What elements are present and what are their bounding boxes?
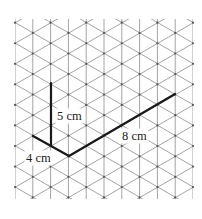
grid-node	[192, 124, 194, 126]
grid-node	[103, 196, 105, 198]
grid-node	[103, 155, 105, 157]
grid-node	[192, 63, 194, 65]
grid-node	[67, 196, 69, 198]
grid-node	[139, 32, 141, 34]
grid-node	[32, 114, 34, 116]
grid-node	[192, 83, 194, 85]
grid-node	[156, 83, 158, 85]
grid-node	[192, 104, 194, 106]
grid-node	[121, 186, 123, 188]
grid-node	[14, 186, 16, 188]
grid-node	[103, 94, 105, 96]
grid-node	[192, 145, 194, 147]
grid-node	[174, 73, 176, 75]
grid-node	[174, 52, 176, 54]
grid-node	[67, 32, 69, 34]
height-label-text: 5 cm	[57, 109, 82, 123]
grid-node	[156, 124, 158, 126]
grid-node	[67, 52, 69, 54]
grid-node	[156, 22, 158, 24]
grid-node	[32, 176, 34, 178]
grid-line	[15, 207, 193, 219]
grid-node	[139, 196, 141, 198]
grid-node	[103, 32, 105, 34]
grid-node	[85, 165, 87, 167]
grid-node	[156, 63, 158, 65]
grid-node	[67, 135, 69, 137]
grid-node	[139, 52, 141, 54]
grid-node	[121, 165, 123, 167]
grid-node	[121, 22, 123, 24]
grid-node	[32, 73, 34, 75]
grid-node	[85, 22, 87, 24]
grid-node	[32, 32, 34, 34]
grid-node	[14, 145, 16, 147]
grid-node	[14, 22, 16, 24]
grid-node	[156, 42, 158, 44]
grid-node	[67, 73, 69, 75]
grid-node	[32, 52, 34, 54]
grid-node	[32, 196, 34, 198]
grid-node	[103, 114, 105, 116]
length-label-text: 8 cm	[122, 129, 147, 143]
grid-node	[85, 124, 87, 126]
grid-node	[85, 104, 87, 106]
grid-node	[85, 186, 87, 188]
grid-node	[139, 73, 141, 75]
grid-node	[67, 176, 69, 178]
grid-node	[174, 135, 176, 137]
grid-node	[174, 114, 176, 116]
grid-node	[85, 42, 87, 44]
grid-node	[192, 165, 194, 167]
grid-node	[192, 42, 194, 44]
grid-node	[156, 165, 158, 167]
grid-line	[15, 208, 193, 219]
grid-node	[103, 73, 105, 75]
grid-node	[14, 165, 16, 167]
grid-node	[121, 42, 123, 44]
grid-node	[192, 22, 194, 24]
grid-node	[174, 196, 176, 198]
grid-node	[174, 32, 176, 34]
grid-node	[50, 22, 52, 24]
width-label: 4 cm	[25, 151, 53, 166]
grid-node	[67, 94, 69, 96]
grid-node	[121, 83, 123, 85]
grid-node	[32, 94, 34, 96]
grid-node	[139, 176, 141, 178]
grid-node	[50, 63, 52, 65]
grid-node	[14, 83, 16, 85]
grid-node	[103, 176, 105, 178]
width-label-text: 4 cm	[26, 151, 51, 165]
grid-node	[50, 186, 52, 188]
grid-node	[156, 186, 158, 188]
grid-node	[174, 155, 176, 157]
grid-node	[85, 63, 87, 65]
grid-node	[121, 104, 123, 106]
grid-node	[174, 176, 176, 178]
grid-node	[14, 124, 16, 126]
grid-node	[192, 186, 194, 188]
grid-node	[139, 155, 141, 157]
grid-node	[50, 42, 52, 44]
isometric-diagram: 5 cm 4 cm 8 cm	[0, 0, 202, 219]
grid-node	[14, 104, 16, 106]
grid-line	[15, 0, 193, 2]
grid-node	[103, 52, 105, 54]
diagram-canvas: 5 cm 4 cm 8 cm	[0, 0, 202, 219]
grid-node	[14, 42, 16, 44]
grid-node	[121, 145, 123, 147]
grid-node	[139, 94, 141, 96]
grid-node	[121, 63, 123, 65]
grid-node	[85, 83, 87, 85]
grid-node	[50, 165, 52, 167]
grid-line	[15, 0, 193, 2]
grid-node	[14, 63, 16, 65]
grid-node	[156, 145, 158, 147]
length-label: 8 cm	[121, 129, 149, 144]
height-label: 5 cm	[56, 109, 84, 124]
